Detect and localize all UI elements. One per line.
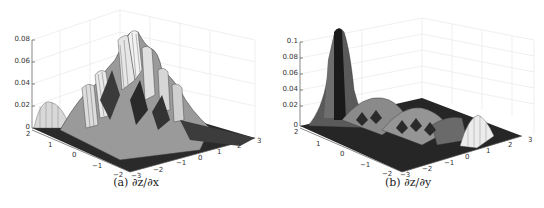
ztick: 0.08 (0, 35, 30, 43)
ytick: 1 (48, 141, 52, 149)
xtick: −1 (176, 159, 186, 167)
ztick: 0.02 (0, 101, 30, 109)
surface-plot-a (0, 0, 272, 175)
ztick: 0.1 (268, 37, 298, 45)
xtick: 1 (217, 148, 221, 156)
panel-b: 0.1 0.08 0.06 0.04 0.02 0 2 1 0 −1 −2 −3… (272, 0, 544, 208)
xtick: 0 (465, 153, 469, 161)
caption-a: (a) ∂z/∂x (0, 176, 272, 189)
xtick: −1 (444, 159, 454, 167)
ytick: 2 (26, 130, 30, 138)
ztick: 0.06 (268, 69, 298, 77)
xtick: 2 (508, 141, 512, 149)
ytick: 0 (72, 151, 76, 159)
surface-plot-b (272, 0, 544, 175)
ytick: 1 (316, 140, 320, 148)
ztick: 0.04 (0, 79, 30, 87)
xtick: 1 (486, 147, 490, 155)
ytick: 0 (340, 150, 344, 158)
panel-a: 0.08 0.06 0.04 0.02 0 2 1 0 −1 −2 −3 −2 … (0, 0, 272, 208)
ztick: 0.06 (0, 57, 30, 65)
xtick: 0 (198, 154, 202, 162)
ztick: 0.04 (268, 85, 298, 93)
ztick: 0.08 (268, 53, 298, 61)
ytick: 2 (294, 128, 298, 136)
caption-b: (b) ∂z/∂y (272, 176, 544, 189)
xtick: 2 (237, 142, 241, 150)
ytick: −1 (360, 161, 370, 169)
xtick: 3 (528, 136, 532, 144)
xtick: −2 (422, 165, 432, 173)
xtick: 3 (257, 137, 261, 145)
xtick: −2 (153, 166, 163, 174)
ytick: −1 (92, 162, 102, 170)
ztick: 0.02 (268, 101, 298, 109)
